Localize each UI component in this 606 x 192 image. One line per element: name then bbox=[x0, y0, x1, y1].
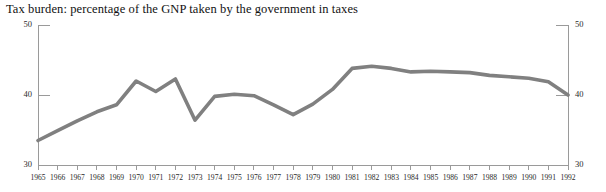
axis-lines bbox=[38, 25, 568, 165]
y-tick-label-right-40: 40 bbox=[575, 89, 595, 99]
data-line-tax-burden bbox=[38, 66, 568, 140]
chart-container: Tax burden: percentage of the GNP taken … bbox=[0, 0, 606, 192]
tick-marks bbox=[38, 25, 568, 170]
chart-plot-area bbox=[0, 0, 606, 192]
y-tick-label-right-50: 50 bbox=[575, 19, 595, 29]
y-tick-label-left-30: 30 bbox=[12, 159, 32, 169]
data-series-layer bbox=[38, 66, 568, 140]
x-tick-label-1992: 1992 bbox=[557, 173, 579, 182]
y-tick-label-left-40: 40 bbox=[12, 89, 32, 99]
y-tick-label-left-50: 50 bbox=[12, 19, 32, 29]
y-tick-label-right-30: 30 bbox=[575, 159, 595, 169]
